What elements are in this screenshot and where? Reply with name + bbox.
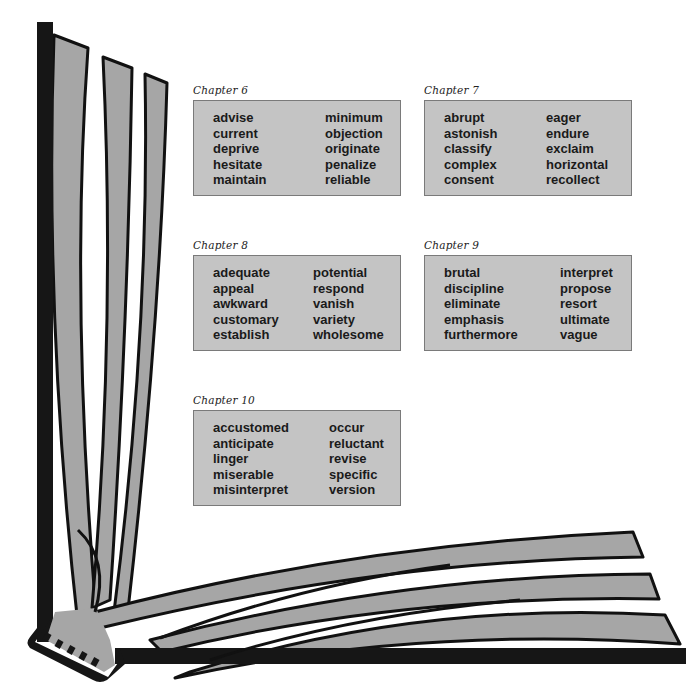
left-cover xyxy=(37,22,53,642)
word-column-left: brutal discipline eliminate emphasis fur… xyxy=(444,265,560,350)
chapter-10-section: Chapter 10 accustomed anticipate linger … xyxy=(193,394,401,506)
vocab-word: objection xyxy=(325,126,383,142)
chapter-9-section: Chapter 9 brutal discipline eliminate em… xyxy=(424,239,632,351)
vocab-word: revise xyxy=(329,451,384,467)
vocab-word: brutal xyxy=(444,265,560,281)
vocab-word: vanish xyxy=(313,296,384,312)
vocab-word: maintain xyxy=(213,172,325,188)
chapter-title: Chapter 8 xyxy=(193,239,401,255)
word-column-left: abrupt astonish classify complex consent xyxy=(444,110,546,195)
vocab-word: deprive xyxy=(213,141,325,157)
vocab-word: propose xyxy=(560,281,613,297)
vocab-word: discipline xyxy=(444,281,560,297)
vocab-word: abrupt xyxy=(444,110,546,126)
chapter-title: Chapter 10 xyxy=(193,394,401,410)
vocab-word: occur xyxy=(329,420,384,436)
vocab-word: astonish xyxy=(444,126,546,142)
chapter-6-section: Chapter 6 advise current deprive hesitat… xyxy=(193,84,401,196)
bottom-cover xyxy=(115,648,686,664)
vocab-word: advise xyxy=(213,110,325,126)
chapter-title: Chapter 7 xyxy=(424,84,632,100)
vocab-word: endure xyxy=(546,126,608,142)
vocab-word: misinterpret xyxy=(213,482,329,498)
vocab-word: eliminate xyxy=(444,296,560,312)
vocab-word: current xyxy=(213,126,325,142)
vocab-word: complex xyxy=(444,157,546,173)
word-column-right: interpret propose resort ultimate vague xyxy=(560,265,613,350)
word-list-box: adequate appeal awkward customary establ… xyxy=(193,255,401,351)
vocab-word: emphasis xyxy=(444,312,560,328)
vocab-word: miserable xyxy=(213,467,329,483)
vocab-word: exclaim xyxy=(546,141,608,157)
vocab-word: ultimate xyxy=(560,312,613,328)
vocab-word: furthermore xyxy=(444,327,560,343)
word-list-box: advise current deprive hesitate maintain… xyxy=(193,100,401,196)
word-list-box: brutal discipline eliminate emphasis fur… xyxy=(424,255,632,351)
vocab-word: penalize xyxy=(325,157,383,173)
vocab-word: appeal xyxy=(213,281,313,297)
word-column-right: eager endure exclaim horizontal recollec… xyxy=(546,110,608,195)
vertical-page-1 xyxy=(52,35,96,625)
vocab-word: eager xyxy=(546,110,608,126)
vocab-word: vague xyxy=(560,327,613,343)
vocab-word: reluctant xyxy=(329,436,384,452)
vocab-word: horizontal xyxy=(546,157,608,173)
chapter-8-section: Chapter 8 adequate appeal awkward custom… xyxy=(193,239,401,351)
vocab-word: version xyxy=(329,482,384,498)
vocab-word: wholesome xyxy=(313,327,384,343)
vocab-word: anticipate xyxy=(213,436,329,452)
vocab-word: customary xyxy=(213,312,313,328)
vocab-word: establish xyxy=(213,327,313,343)
vocab-word: potential xyxy=(313,265,384,281)
word-list-box: abrupt astonish classify complex consent… xyxy=(424,100,632,196)
vocab-word: resort xyxy=(560,296,613,312)
vocab-word: minimum xyxy=(325,110,383,126)
vocab-word: classify xyxy=(444,141,546,157)
vocab-word: interpret xyxy=(560,265,613,281)
chapter-7-section: Chapter 7 abrupt astonish classify compl… xyxy=(424,84,632,196)
word-list-box: accustomed anticipate linger miserable m… xyxy=(193,410,401,506)
vocab-word: adequate xyxy=(213,265,313,281)
vocab-word: variety xyxy=(313,312,384,328)
word-column-left: advise current deprive hesitate maintain xyxy=(213,110,325,195)
vocab-word: awkward xyxy=(213,296,313,312)
vocab-word: linger xyxy=(213,451,329,467)
vocab-word: accustomed xyxy=(213,420,329,436)
word-column-left: adequate appeal awkward customary establ… xyxy=(213,265,313,350)
vocab-word: specific xyxy=(329,467,384,483)
vocab-word: hesitate xyxy=(213,157,325,173)
word-column-left: accustomed anticipate linger miserable m… xyxy=(213,420,329,505)
vocab-word: reliable xyxy=(325,172,383,188)
vocab-word: originate xyxy=(325,141,383,157)
vocab-word: respond xyxy=(313,281,384,297)
word-column-right: minimum objection originate penalize rel… xyxy=(325,110,383,195)
word-column-right: potential respond vanish variety wholeso… xyxy=(313,265,384,350)
vocab-word: recollect xyxy=(546,172,608,188)
chapter-title: Chapter 9 xyxy=(424,239,632,255)
vocab-word: consent xyxy=(444,172,546,188)
word-column-right: occur reluctant revise specific version xyxy=(329,420,384,505)
chapter-title: Chapter 6 xyxy=(193,84,401,100)
